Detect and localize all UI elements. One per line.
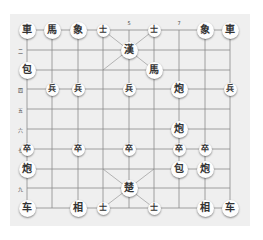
- piece-楚[interactable]: 楚: [121, 180, 138, 197]
- file-label: 7: [177, 20, 180, 26]
- piece-漢[interactable]: 漢: [121, 42, 138, 59]
- piece-包[interactable]: 包: [19, 62, 36, 79]
- piece-兵[interactable]: 兵: [123, 83, 136, 96]
- piece-炮[interactable]: 炮: [171, 121, 188, 138]
- piece-卒[interactable]: 卒: [72, 143, 85, 156]
- piece-相[interactable]: 相: [70, 200, 87, 217]
- piece-车[interactable]: 车: [222, 200, 239, 217]
- piece-象[interactable]: 象: [197, 22, 214, 39]
- piece-象[interactable]: 象: [70, 22, 87, 39]
- rank-label: 四: [18, 86, 23, 93]
- piece-兵[interactable]: 兵: [72, 83, 85, 96]
- piece-車[interactable]: 車: [19, 22, 36, 39]
- piece-馬[interactable]: 馬: [146, 62, 163, 79]
- piece-卒[interactable]: 卒: [123, 143, 136, 156]
- piece-士[interactable]: 士: [148, 202, 161, 215]
- piece-馬[interactable]: 馬: [44, 22, 61, 39]
- piece-车[interactable]: 车: [19, 200, 36, 217]
- rank-label: 九: [18, 185, 23, 192]
- piece-車[interactable]: 車: [222, 22, 239, 39]
- piece-卒[interactable]: 卒: [21, 143, 34, 156]
- file-label: 5: [127, 20, 130, 26]
- rank-label: 六: [18, 126, 23, 133]
- piece-士[interactable]: 士: [148, 24, 161, 37]
- piece-相[interactable]: 相: [197, 200, 214, 217]
- piece-包[interactable]: 包: [171, 161, 188, 178]
- piece-炮[interactable]: 炮: [171, 81, 188, 98]
- piece-兵[interactable]: 兵: [46, 83, 59, 96]
- piece-士[interactable]: 士: [97, 202, 110, 215]
- piece-兵[interactable]: 兵: [224, 83, 237, 96]
- piece-卒[interactable]: 卒: [173, 143, 186, 156]
- rank-label: 五: [18, 106, 23, 113]
- piece-炮[interactable]: 炮: [197, 161, 214, 178]
- piece-士[interactable]: 士: [97, 24, 110, 37]
- piece-炮[interactable]: 炮: [19, 161, 36, 178]
- piece-卒[interactable]: 卒: [199, 143, 212, 156]
- rank-label: 二: [18, 47, 23, 54]
